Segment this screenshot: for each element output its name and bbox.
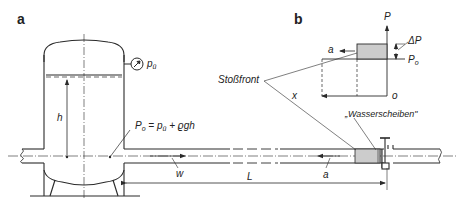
axis-x-label: x [292, 91, 297, 101]
shock-front-leaders [264, 53, 357, 150]
pressure-graph [322, 26, 408, 96]
pressure-leader [110, 130, 130, 157]
water-hammer-diagram [0, 0, 462, 206]
shock-front-label: Stoßfront [218, 75, 259, 85]
valve [380, 138, 393, 169]
origin-label: o [392, 91, 398, 101]
shock-zone [355, 149, 380, 163]
height-label: h [57, 113, 63, 123]
delta-p-label: ΔP [408, 36, 421, 46]
water-disks-label: „Wasserscheiben" [345, 110, 418, 119]
panel-label-b: b [294, 12, 303, 26]
p0-label: Po [408, 55, 419, 66]
velocity-label: w [176, 169, 183, 179]
length-label: L [247, 172, 253, 182]
wave-speed-graph-label: a [328, 45, 334, 55]
pressure-gauge-icon [124, 58, 143, 70]
right-break-mark [439, 149, 442, 163]
axis-p-label: P [384, 12, 391, 22]
panel-label-a: a [17, 12, 25, 26]
wave-speed-pipe-label: a [323, 170, 329, 180]
static-pressure-equation: Po = pü + ϱgh [135, 121, 195, 132]
tank [22, 40, 140, 196]
gauge-pressure-label: pü [147, 59, 156, 70]
